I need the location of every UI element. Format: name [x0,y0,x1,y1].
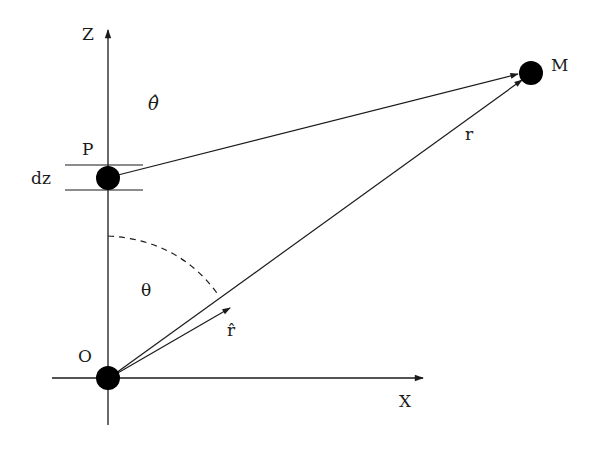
origin-label: O [78,346,92,366]
point-m-label: M [551,55,568,75]
theta-arc [108,236,219,296]
vector-p-to-m [118,74,518,175]
point-p [96,166,120,190]
point-m [519,61,543,85]
x-axis-label: X [399,391,412,411]
z-axis-label: Z [82,24,94,44]
diagram-canvas: Z X O P M dz θ̂ θ r̂ r [0,0,596,455]
point-p-label: P [82,139,93,159]
theta-label: θ [141,280,151,300]
r-label: r [465,124,474,144]
r-hat-label: r̂ [227,320,236,340]
theta-hat-label: θ̂ [148,93,159,114]
origin-point-o [96,366,120,390]
unit-vector-r-hat [116,308,230,374]
dz-label: dz [31,168,51,188]
